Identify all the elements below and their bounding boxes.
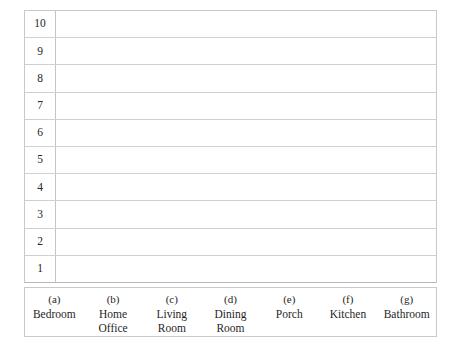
x-axis-category-b: (b) Home Office <box>84 288 143 335</box>
y-axis-tick-label: 2 <box>37 236 43 248</box>
category-label: Living Room <box>156 307 187 335</box>
category-label-line2: Room <box>156 321 187 335</box>
chart-row: 4 <box>25 174 436 201</box>
category-label-line2: Room <box>215 321 247 335</box>
category-key: (b) <box>107 293 120 307</box>
category-label-line1: Kitchen <box>330 307 366 321</box>
chart-row: 2 <box>25 229 436 256</box>
category-label-line1: Dining <box>215 307 247 321</box>
category-key: (e) <box>283 293 295 307</box>
category-key: (c) <box>166 293 178 307</box>
y-axis-tick-label: 4 <box>37 182 43 194</box>
y-axis-tick: 7 <box>25 93 56 119</box>
y-axis-tick-label: 7 <box>37 100 43 112</box>
y-axis-tick-label: 8 <box>37 73 43 85</box>
x-axis-category-c: (c) Living Room <box>142 288 201 335</box>
y-axis-tick-label: 5 <box>37 154 43 166</box>
chart-row: 9 <box>25 38 436 65</box>
y-axis-tick: 3 <box>25 201 56 227</box>
category-label-line1: Living <box>156 307 187 321</box>
y-axis-tick: 6 <box>25 120 56 146</box>
chart-plot-area-row <box>56 11 436 37</box>
x-axis-category-a: (a) Bedroom <box>25 288 84 321</box>
y-axis-tick: 10 <box>25 11 56 37</box>
category-label: Kitchen <box>330 307 366 321</box>
chart-gridlines: 10 9 8 7 6 5 4 3 <box>25 11 436 282</box>
y-axis-tick: 1 <box>25 256 56 282</box>
y-axis-tick: 9 <box>25 38 56 64</box>
x-axis-category-g: (g) Bathroom <box>377 288 436 321</box>
chart-row: 8 <box>25 65 436 92</box>
category-label-line1: Bathroom <box>384 307 430 321</box>
y-axis-tick: 8 <box>25 65 56 91</box>
category-label-line1: Home <box>98 307 127 321</box>
chart-plot-area-row <box>56 147 436 173</box>
category-key: (a) <box>48 293 60 307</box>
category-label-line1: Porch <box>276 307 303 321</box>
chart-plot-area-row <box>56 229 436 255</box>
x-axis-category-e: (e) Porch <box>260 288 319 321</box>
chart-plot-area-row <box>56 93 436 119</box>
chart-plot-panel: 10 9 8 7 6 5 4 3 <box>24 10 437 283</box>
category-label: Bathroom <box>384 307 430 321</box>
y-axis-tick: 4 <box>25 174 56 200</box>
chart-row: 1 <box>25 256 436 282</box>
category-label: Bedroom <box>33 307 76 321</box>
category-key: (f) <box>342 293 353 307</box>
y-axis-tick: 5 <box>25 147 56 173</box>
chart-plot-area-row <box>56 256 436 282</box>
chart-row: 6 <box>25 120 436 147</box>
y-axis-tick-label: 1 <box>37 263 43 275</box>
y-axis-tick-label: 3 <box>37 209 43 221</box>
x-axis-category-d: (d) Dining Room <box>201 288 260 335</box>
chart-row: 10 <box>25 11 436 38</box>
chart-plot-area-row <box>56 65 436 91</box>
category-label: Home Office <box>98 307 127 335</box>
chart-row: 5 <box>25 147 436 174</box>
category-key: (g) <box>400 293 413 307</box>
chart-plot-area-row <box>56 38 436 64</box>
category-key: (d) <box>224 293 237 307</box>
category-label: Dining Room <box>215 307 247 335</box>
x-axis-label-box: (a) Bedroom (b) Home Office (c) Living R… <box>24 287 437 337</box>
y-axis-tick-label: 10 <box>34 18 46 30</box>
chart-plot-area-row <box>56 201 436 227</box>
category-label: Porch <box>276 307 303 321</box>
category-label-line2: Office <box>98 321 127 335</box>
category-label-line1: Bedroom <box>33 307 76 321</box>
chart-row: 7 <box>25 93 436 120</box>
x-axis-category-f: (f) Kitchen <box>319 288 378 321</box>
chart-row: 3 <box>25 201 436 228</box>
chart-plot-area-row <box>56 120 436 146</box>
y-axis-tick-label: 9 <box>37 46 43 58</box>
y-axis-tick: 2 <box>25 229 56 255</box>
y-axis-tick-label: 6 <box>37 127 43 139</box>
chart-plot-area-row <box>56 174 436 200</box>
